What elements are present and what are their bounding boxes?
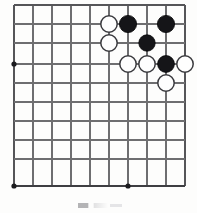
white-stone-2[interactable] (101, 35, 117, 51)
star-point-left (11, 61, 16, 66)
white-stone-6[interactable] (158, 75, 174, 91)
white-stone-3[interactable] (120, 56, 136, 72)
star-point-bottom-center (125, 183, 130, 188)
white-stone-5[interactable] (177, 56, 193, 72)
black-stone-3[interactable] (139, 35, 155, 51)
caption-smudge (78, 203, 108, 208)
go-board-canvas (0, 0, 197, 213)
white-stone-1[interactable] (101, 16, 117, 32)
black-stone-2[interactable] (157, 15, 174, 32)
star-point-bottom-left (11, 183, 16, 188)
black-stone-1[interactable] (119, 15, 136, 32)
go-board-diagram (0, 0, 197, 213)
caption-smudge-secondary (110, 204, 122, 207)
white-stone-4[interactable] (139, 56, 155, 72)
grid-horizontal-lines (14, 5, 185, 186)
black-stone-4[interactable] (158, 56, 175, 73)
